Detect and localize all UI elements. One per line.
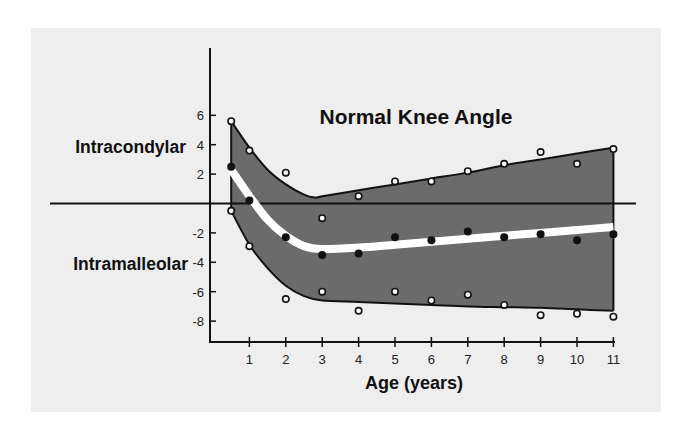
mean-data-point (500, 233, 508, 241)
y-tick-label: 4 (197, 138, 204, 153)
mean-data-point (245, 197, 253, 205)
y-tick-label: 2 (197, 167, 204, 182)
x-tick-label: 4 (355, 352, 362, 367)
x-tick-label: 3 (319, 352, 326, 367)
x-tick-label: 9 (537, 352, 544, 367)
range-data-point (392, 178, 398, 184)
mean-data-point (355, 249, 363, 257)
mean-data-point (573, 236, 581, 244)
range-data-point (428, 297, 434, 303)
x-tick-label: 11 (607, 352, 621, 367)
x-tick-label: 1 (246, 352, 253, 367)
range-data-point (501, 302, 507, 308)
mean-data-point (318, 251, 326, 259)
range-data-point (246, 243, 252, 249)
label-intracondylar: Intracondylar (75, 137, 186, 157)
label-intramalleolar: Intramalleolar (73, 254, 188, 274)
y-tick-label: -8 (192, 314, 204, 329)
range-data-point (392, 289, 398, 295)
range-data-point (610, 146, 616, 152)
range-data-point (465, 291, 471, 297)
range-data-point (228, 118, 234, 124)
normal-range-band (231, 121, 613, 311)
range-data-point (574, 161, 580, 167)
mean-data-point (282, 233, 290, 241)
y-tick-label: -4 (192, 255, 204, 270)
range-data-point (537, 312, 543, 318)
y-tick-label: 6 (197, 108, 204, 123)
mean-data-point (609, 230, 617, 238)
range-data-point (537, 149, 543, 155)
range-data-point (319, 215, 325, 221)
range-data-point (428, 178, 434, 184)
x-tick-label: 8 (501, 352, 508, 367)
mean-data-point (464, 227, 472, 235)
x-tick-label: 5 (391, 352, 398, 367)
x-tick-label: 10 (570, 352, 584, 367)
x-tick-label: 6 (428, 352, 435, 367)
range-data-point (355, 308, 361, 314)
x-tick-label: 7 (464, 352, 471, 367)
range-data-point (610, 313, 616, 319)
x-axis-title: Age (years) (365, 373, 463, 393)
mean-data-point (391, 233, 399, 241)
range-data-point (319, 289, 325, 295)
range-data-point (283, 296, 289, 302)
range-data-point (465, 168, 471, 174)
x-tick-label: 2 (282, 352, 289, 367)
range-data-point (246, 147, 252, 153)
range-data-point (355, 193, 361, 199)
mean-data-point (537, 230, 545, 238)
mean-data-point (227, 163, 235, 171)
band-fill (231, 121, 613, 311)
mean-data-point (427, 236, 435, 244)
y-tick-label: -2 (192, 226, 204, 241)
range-data-point (228, 208, 234, 214)
range-data-point (283, 169, 289, 175)
range-data-point (574, 311, 580, 317)
range-data-point (501, 161, 507, 167)
y-tick-label: -6 (192, 285, 204, 300)
knee-angle-chart: 642-2-4-6-81234567891011 Normal Knee Ang… (0, 0, 695, 434)
chart-title: Normal Knee Angle (320, 105, 513, 128)
